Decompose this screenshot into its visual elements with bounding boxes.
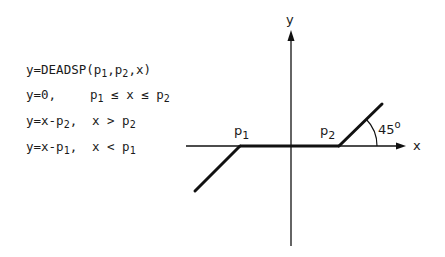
x-axis-arrow-icon <box>396 143 406 150</box>
p1-subscript: 1 <box>242 129 249 142</box>
degree-symbol: o <box>395 119 401 130</box>
angle-arc <box>366 119 377 146</box>
angle-value: 45 <box>378 122 395 137</box>
angle-label: 45o <box>378 119 401 137</box>
p1-text: p <box>234 123 242 138</box>
p2-subscript: 2 <box>328 129 335 142</box>
y-axis-arrow-icon <box>288 30 295 41</box>
x-axis-label: x <box>413 138 421 153</box>
lower-slope-segment <box>195 146 240 191</box>
p1-label: p1 <box>234 123 249 142</box>
y-axis-label: y <box>286 12 294 27</box>
upper-slope-segment <box>339 104 382 146</box>
deadspace-graph: y x p1 p2 45o <box>0 0 445 257</box>
p2-label: p2 <box>320 123 335 142</box>
p2-text: p <box>320 123 328 138</box>
